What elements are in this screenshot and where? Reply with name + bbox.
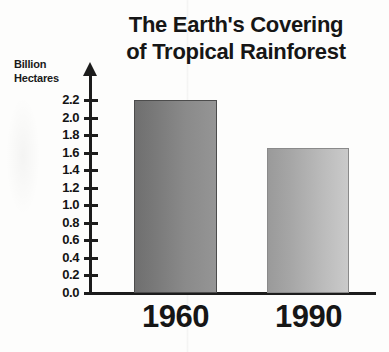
y-axis-tick-label: 0.0: [33, 285, 79, 300]
y-axis-unit-label-line-1: Billion: [14, 58, 59, 72]
y-axis-tick-label: 1.0: [33, 197, 79, 212]
y-axis-unit-label: Billion Hectares: [14, 58, 59, 86]
bar-1990: [267, 148, 349, 293]
y-axis-tick-label: 0.4: [33, 250, 79, 265]
y-axis-unit-label-line-2: Hectares: [14, 72, 59, 86]
y-axis-tick-label: 0.2: [33, 267, 79, 282]
y-axis-tick-label: 2.2: [33, 92, 79, 107]
y-axis-tick-mark: [84, 169, 98, 172]
chart-title-line-2: of Tropical Rainforest: [88, 39, 384, 66]
y-axis-tick-mark: [84, 187, 98, 190]
y-axis-tick-label: 2.0: [33, 110, 79, 125]
y-axis-tick-mark: [84, 274, 98, 277]
y-axis-tick-label: 1.8: [33, 127, 79, 142]
y-axis-tick-mark: [84, 239, 98, 242]
y-axis-tick-label: 1.4: [33, 162, 79, 177]
chart-title: The Earth's Covering of Tropical Rainfor…: [88, 12, 384, 66]
y-axis-tick-mark: [84, 257, 98, 260]
bar-1960: [134, 100, 217, 293]
y-axis-tick-label: 1.2: [33, 180, 79, 195]
chart-title-line-1: The Earth's Covering: [88, 12, 384, 39]
y-axis-tick-mark: [84, 292, 98, 295]
y-axis-tick-label: 0.6: [33, 232, 79, 247]
y-axis-tick-mark: [84, 99, 98, 102]
y-axis-tick-label: 0.8: [33, 215, 79, 230]
y-axis-tick-mark: [84, 204, 98, 207]
y-axis-tick-label: 1.6: [33, 145, 79, 160]
y-axis-line: [89, 74, 92, 294]
y-axis-tick-mark: [84, 134, 98, 137]
y-axis-tick-mark: [84, 222, 98, 225]
y-axis-tick-mark: [84, 152, 98, 155]
x-axis-label-1960: 1960: [118, 299, 233, 335]
y-axis-tick-mark: [84, 117, 98, 120]
x-axis-label-1990: 1990: [251, 299, 366, 335]
bar-chart-figure: The Earth's Covering of Tropical Rainfor…: [0, 0, 389, 352]
